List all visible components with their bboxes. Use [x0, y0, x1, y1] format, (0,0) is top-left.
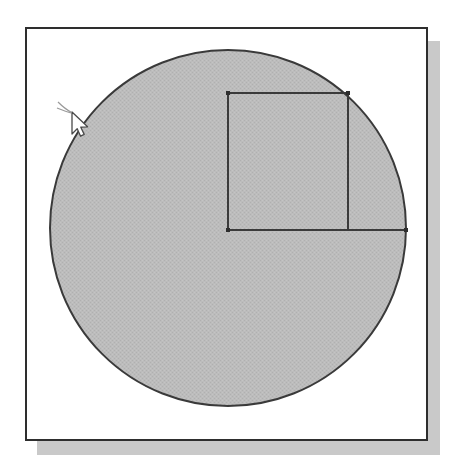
geometry-diagram — [0, 0, 453, 470]
vertex-right-marker — [404, 228, 408, 232]
vertex-center-marker — [226, 228, 230, 232]
vertex-top-left-marker — [226, 91, 230, 95]
figure-canvas — [0, 0, 453, 470]
vertex-top-right-marker — [346, 91, 350, 95]
